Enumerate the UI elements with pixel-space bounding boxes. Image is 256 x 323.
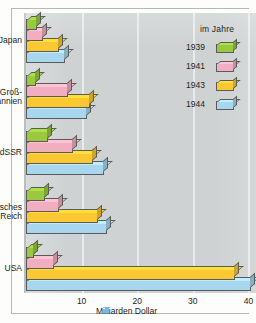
legend-swatch-top-face [217, 99, 241, 102]
legend-swatch-top-face [217, 42, 241, 45]
chart-figure: JapanGroß- britannienUdSSRDeutsches Reic… [0, 0, 256, 323]
legend-swatch-side-face [233, 39, 237, 51]
category-label: Deutsches Reich [0, 203, 22, 222]
bar-side-face [58, 34, 63, 49]
frame-top-border [11, 8, 249, 9]
legend-swatch-top-face [217, 61, 241, 64]
bar-row [24, 280, 256, 291]
legend-entry-label: 1941 [186, 61, 212, 71]
bar-1941 [26, 86, 68, 97]
legend-swatch-side-face [233, 58, 237, 70]
x-tick-label: 10 [77, 296, 86, 306]
x-tick-label: 20 [132, 296, 141, 306]
bar-side-face [42, 23, 47, 38]
bar-side-face [103, 157, 108, 172]
bar-1939 [26, 190, 45, 201]
legend-entry: 1939 [186, 39, 248, 55]
x-axis-label: Milliarden Dollar [24, 306, 229, 316]
category-axis-labels: JapanGroß- britannienUdSSRDeutsches Reic… [0, 13, 24, 293]
bar-1943 [26, 153, 93, 164]
legend-swatch-1939 [216, 44, 234, 53]
bar-1943 [26, 212, 98, 223]
bar-top-face [27, 128, 57, 132]
legend-entry-label: 1943 [186, 80, 212, 90]
legend-entry-label: 1939 [186, 42, 212, 52]
bar-1944 [26, 108, 87, 119]
bar-row [24, 269, 256, 280]
bar-row [24, 223, 256, 234]
bar-1941 [26, 201, 59, 212]
x-tick-label: 30 [188, 296, 197, 306]
bar-1944 [26, 52, 65, 63]
bar-side-face [92, 146, 97, 161]
legend-swatch-side-face [233, 77, 237, 89]
bar-1943 [26, 97, 90, 108]
bar-side-face [106, 216, 111, 231]
bar-row [24, 153, 256, 164]
legend-entry: 1944 [186, 96, 248, 112]
bar-row [24, 201, 256, 212]
category-label: UdSSR [0, 148, 22, 158]
bar-side-face [58, 194, 63, 209]
bar-1943 [26, 269, 235, 280]
bar-1941 [26, 30, 43, 41]
bar-1939 [26, 19, 37, 30]
bar-side-face [53, 251, 58, 266]
bar-1941 [26, 258, 54, 269]
legend-swatch-1944 [216, 101, 234, 110]
legend-title: im Jahre [186, 24, 248, 34]
bar-side-face [72, 135, 77, 150]
category-label: Japan [0, 36, 22, 46]
bar-1939 [26, 131, 48, 142]
chart-legend: im Jahre 1939194119431944 [186, 24, 248, 115]
legend-entries: 1939194119431944 [186, 39, 248, 112]
bar-top-face [27, 187, 54, 191]
bar-top-face [27, 266, 243, 270]
legend-entry: 1943 [186, 77, 248, 93]
bar-side-face [234, 262, 239, 277]
bar-1941 [26, 142, 73, 153]
category-label: USA [0, 264, 22, 274]
bar-1943 [26, 41, 59, 52]
legend-entry-label: 1944 [186, 99, 212, 109]
legend-entry: 1941 [186, 58, 248, 74]
bar-side-face [250, 273, 255, 288]
x-axis: 10203040 Milliarden Dollar [24, 293, 256, 323]
bar-side-face [36, 12, 41, 27]
bar-side-face [89, 90, 94, 105]
legend-swatch-1943 [216, 82, 234, 91]
bar-side-face [47, 124, 52, 139]
x-tick-label: 40 [244, 296, 253, 306]
bar-1939 [26, 75, 36, 86]
bar-side-face [35, 68, 40, 83]
legend-swatch-1941 [216, 63, 234, 72]
bar-row [24, 212, 256, 223]
bar-side-face [67, 79, 72, 94]
bar-1939 [26, 247, 34, 258]
legend-swatch-top-face [217, 80, 241, 83]
bar-side-face [44, 183, 49, 198]
bar-1944 [26, 280, 251, 291]
bar-1944 [26, 223, 107, 234]
bar-side-face [97, 205, 102, 220]
legend-swatch-side-face [233, 96, 237, 108]
category-label: Groß- britannien [0, 88, 22, 107]
bar-1944 [26, 164, 104, 175]
bar-row [24, 142, 256, 153]
bar-row [24, 164, 256, 175]
bar-side-face [64, 45, 69, 60]
bar-side-face [33, 240, 38, 255]
